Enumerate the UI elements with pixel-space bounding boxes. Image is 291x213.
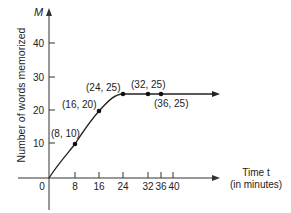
y-axis-arrow-icon xyxy=(46,8,52,16)
point-label: (24, 25) xyxy=(86,82,120,93)
y-axis-letter: M xyxy=(34,6,44,18)
y-tick-label: 40 xyxy=(33,38,45,49)
curve-arrow-icon xyxy=(212,91,220,97)
x-tick-label: 8 xyxy=(72,181,78,192)
x-tick-label: 16 xyxy=(93,181,105,192)
x-axis-title-line1: Time t xyxy=(242,167,270,178)
point-labels: (8, 10) (16, 20) (24, 25) (32, 25) (36, … xyxy=(51,79,188,139)
y-tick-label: 30 xyxy=(33,72,45,83)
x-tick-label: 24 xyxy=(117,181,129,192)
origin-label: 0 xyxy=(39,181,45,192)
x-ticks xyxy=(75,172,173,178)
point-16-20 xyxy=(97,109,102,114)
point-36-25 xyxy=(159,92,164,97)
point-label: (36, 25) xyxy=(154,98,188,109)
line-chart: 10 20 30 40 0 8 16 24 32 36 40 M Number … xyxy=(0,0,291,213)
point-label: (16, 20) xyxy=(62,99,96,110)
x-tick-labels: 0 8 16 24 32 36 40 xyxy=(39,181,180,192)
point-label: (32, 25) xyxy=(131,79,165,90)
point-24-25 xyxy=(121,92,126,97)
y-tick-labels: 10 20 30 40 xyxy=(33,38,45,149)
y-tick-label: 20 xyxy=(33,105,45,116)
point-32-25 xyxy=(146,92,151,97)
x-axis-title-line2: (in minutes) xyxy=(230,179,282,190)
x-tick-label: 32 xyxy=(142,181,154,192)
y-tick-label: 10 xyxy=(33,138,45,149)
x-tick-label: 36 xyxy=(155,181,167,192)
y-axis-title: Number of words memorized xyxy=(15,27,27,162)
point-8-10 xyxy=(73,142,78,147)
x-axis-arrow-icon xyxy=(212,175,220,181)
point-label: (8, 10) xyxy=(51,128,80,139)
x-tick-label: 40 xyxy=(168,181,180,192)
